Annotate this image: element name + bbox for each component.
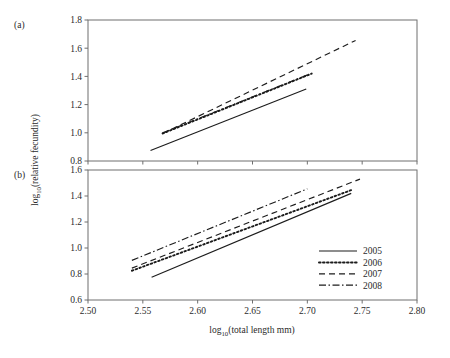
y-axis-title: log10(relative fecundity) — [30, 114, 42, 206]
x-tick-label: 2.60 — [189, 306, 206, 316]
y-tick-label: 1.2 — [70, 100, 82, 110]
y-tick-label: 1.0 — [70, 128, 82, 138]
panel-b: 0.60.81.01.21.41.62.502.552.602.652.702.… — [14, 165, 426, 316]
series-line-2007 — [132, 179, 360, 268]
figure-container: 0.81.01.21.41.61.8(a) 0.60.81.01.21.41.6… — [0, 0, 450, 358]
x-axis-title: log10(total length mm) — [209, 325, 294, 337]
series-line-2006 — [132, 190, 351, 271]
legend-label-2005: 2005 — [363, 246, 382, 256]
y-tick-label: 0.6 — [70, 295, 82, 305]
panel-letter: (b) — [14, 170, 25, 181]
x-tick-label: 2.70 — [299, 306, 316, 316]
y-tick-label: 1.2 — [70, 217, 82, 227]
x-tick-label: 2.65 — [244, 306, 261, 316]
series-line-2005 — [151, 89, 307, 150]
y-tick-label: 1.8 — [70, 15, 82, 25]
series-line-2007 — [163, 40, 356, 133]
x-tick-label: 2.50 — [80, 306, 97, 316]
chart-legend: 2005200620072008 — [319, 246, 382, 290]
plot-frame — [88, 20, 417, 161]
series-line-2005 — [152, 193, 352, 277]
legend-label-2007: 2007 — [363, 269, 382, 279]
series-line-2008 — [163, 75, 308, 133]
y-tick-label: 0.8 — [70, 269, 82, 279]
x-tick-label: 2.75 — [354, 306, 371, 316]
panel-letter: (a) — [14, 20, 25, 31]
chart-svg: 0.81.01.21.41.61.8(a) 0.60.81.01.21.41.6… — [0, 0, 450, 358]
x-tick-label: 2.80 — [409, 306, 426, 316]
series-line-2008 — [132, 189, 307, 261]
panel-a: 0.81.01.21.41.61.8(a) — [14, 15, 417, 166]
y-tick-label: 1.6 — [70, 165, 82, 175]
y-tick-label: 1.0 — [70, 243, 82, 253]
y-tick-label: 1.4 — [70, 191, 82, 201]
legend-label-2008: 2008 — [363, 281, 382, 291]
y-tick-label: 1.6 — [70, 44, 82, 54]
legend-label-2006: 2006 — [363, 258, 382, 268]
y-tick-label: 1.4 — [70, 72, 82, 82]
x-tick-label: 2.55 — [135, 306, 152, 316]
